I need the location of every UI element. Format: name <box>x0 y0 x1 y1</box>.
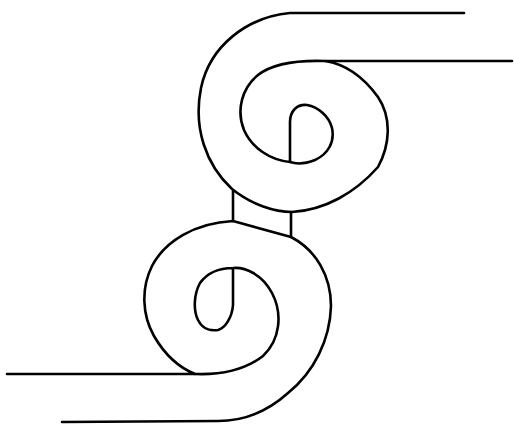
background <box>0 0 514 433</box>
spiral-drawing <box>0 0 514 433</box>
